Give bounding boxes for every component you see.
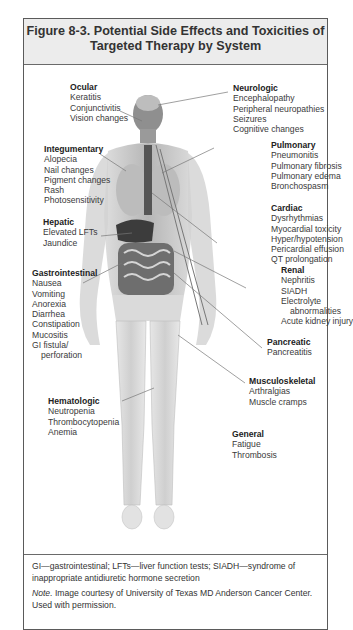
effect-item: Pericardial effusion <box>271 244 344 254</box>
note-text: Image courtesy of University of Texas MD… <box>32 588 312 610</box>
effect-item: Electrolyte <box>281 296 353 306</box>
effect-item: Pigment changes <box>44 175 110 185</box>
effect-item: Constipation <box>32 319 97 329</box>
effect-item: Bronchospasm <box>271 181 342 191</box>
effect-item: Jaundice <box>43 238 97 248</box>
effect-item: perforation <box>32 350 97 360</box>
effect-item: Cognitive changes <box>233 124 324 134</box>
system-cardiac: Cardiac Dysrhythmias Myocardial toxicity… <box>271 203 344 265</box>
effect-item: Alopecia <box>44 154 110 164</box>
abbreviations-note: GI—gastrointestinal; LFTs—liver function… <box>32 561 319 584</box>
effect-item: Anemia <box>48 427 119 437</box>
system-general: General Fatigue Thrombosis <box>232 429 277 460</box>
figure-title: Figure 8-3. Potential Side Effects and T… <box>24 24 327 54</box>
effect-item: Keratitis <box>70 92 128 102</box>
effect-item: Peripheral neuropathies <box>233 104 324 114</box>
effect-item: Muscle cramps <box>249 397 315 407</box>
effect-item: Conjunctivitis <box>70 103 128 113</box>
system-label: Ocular <box>70 82 128 92</box>
note-label: Note. <box>32 588 53 598</box>
effect-item: Thrombosis <box>232 450 277 460</box>
effect-item: Neutropenia <box>48 406 119 416</box>
system-label: Gastrointestinal <box>32 268 97 278</box>
system-neurologic: Neurologic Encephalopathy Peripheral neu… <box>233 83 324 134</box>
effect-item: abnormalities <box>281 306 353 316</box>
effect-item: Rash <box>44 185 110 195</box>
effect-item: Encephalopathy <box>233 93 324 103</box>
system-label: Pancreatic <box>267 337 312 347</box>
effect-item: Anorexia <box>32 299 97 309</box>
effect-item: Hyper/hypotension <box>271 234 344 244</box>
effect-item: Myocardial toxicity <box>271 224 344 234</box>
system-label: Integumentary <box>44 144 110 154</box>
system-label: Neurologic <box>233 83 324 93</box>
effect-item: Thrombocytopenia <box>48 417 119 427</box>
effect-item: Fatigue <box>232 439 277 449</box>
effect-item: Seizures <box>233 114 324 124</box>
system-pancreatic: Pancreatic Pancreatitis <box>267 337 312 358</box>
system-hematologic: Hematologic Neutropenia Thrombocytopenia… <box>48 396 119 437</box>
system-ocular: Ocular Keratitis Conjunctivitis Vision c… <box>70 82 128 123</box>
effect-item: Arthralgias <box>249 386 315 396</box>
figure-frame: Figure 8-3. Potential Side Effects and T… <box>23 18 328 630</box>
figure-title-line-1: Figure 8-3. Potential Side Effects and T… <box>24 24 327 39</box>
effect-item: Nausea <box>32 278 97 288</box>
system-integumentary: Integumentary Alopecia Nail changes Pigm… <box>44 144 110 206</box>
system-label: General <box>232 429 277 439</box>
effect-item: GI fistula/ <box>32 340 97 350</box>
system-pulmonary: Pulmonary Pneumonitis Pulmonary fibrosis… <box>271 140 342 191</box>
credit-note: Note. Image courtesy of University of Te… <box>32 588 319 611</box>
effect-item: Vision changes <box>70 113 128 123</box>
system-label: Hepatic <box>43 217 97 227</box>
figure-title-line-2: Targeted Therapy by System <box>24 39 327 54</box>
system-label: Hematologic <box>48 396 119 406</box>
body-diagram: Neurologic Encephalopathy Peripheral neu… <box>24 65 327 554</box>
effect-item: Pulmonary edema <box>271 171 342 181</box>
effect-item: Pulmonary fibrosis <box>271 161 342 171</box>
figure-footnote: GI—gastrointestinal; LFTs—liver function… <box>24 554 327 615</box>
system-label: Cardiac <box>271 203 344 213</box>
effect-item: Nephritis <box>281 275 353 285</box>
system-label: Renal <box>281 265 353 275</box>
title-band: Figure 8-3. Potential Side Effects and T… <box>24 19 327 65</box>
system-hepatic: Hepatic Elevated LFTs Jaundice <box>43 217 97 248</box>
effect-item: Pancreatitis <box>267 347 312 357</box>
effect-item: Nail changes <box>44 165 110 175</box>
system-label: Pulmonary <box>271 140 342 150</box>
effect-item: Pneumonitis <box>271 150 342 160</box>
effect-item: Diarrhea <box>32 309 97 319</box>
effect-item: Photosensitivity <box>44 195 110 205</box>
effect-item: Elevated LFTs <box>43 227 97 237</box>
system-musculoskeletal: Musculoskeletal Arthralgias Muscle cramp… <box>249 376 315 407</box>
system-renal: Renal Nephritis SIADH Electrolyte abnorm… <box>281 265 353 327</box>
effect-item: QT prolongation <box>271 254 344 264</box>
system-label: Musculoskeletal <box>249 376 315 386</box>
effect-item: SIADH <box>281 286 353 296</box>
effect-item: Mucositis <box>32 330 97 340</box>
effect-item: Acute kidney injury <box>281 316 353 326</box>
effect-item: Dysrhythmias <box>271 213 344 223</box>
effect-item: Vomiting <box>32 289 97 299</box>
system-gastrointestinal: Gastrointestinal Nausea Vomiting Anorexi… <box>32 268 97 361</box>
